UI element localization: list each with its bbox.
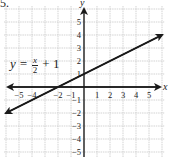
y-tick-label: 3: [77, 43, 81, 53]
fraction-denominator: 2: [32, 66, 38, 75]
x-tick-label: 2: [108, 90, 112, 100]
x-tick-label: 4: [134, 90, 139, 100]
x-axis-label: x: [162, 81, 168, 92]
y-axis-label: y: [79, 0, 85, 8]
x-tick-label: 5: [147, 90, 151, 100]
y-tick-label: −4: [72, 134, 82, 144]
x-tick-label: 1: [95, 90, 99, 100]
fraction: x 2: [32, 56, 38, 75]
equation-lhs: y =: [10, 56, 28, 71]
y-tick-label: −5: [72, 147, 81, 157]
y-tick-label: −3: [72, 121, 81, 131]
x-tick-label: −2: [53, 90, 62, 100]
equation-label: y = x 2 + 1: [10, 56, 59, 75]
y-tick-label: 5: [77, 17, 81, 27]
y-tick-label: 2: [77, 56, 81, 66]
x-tick-label: −5: [14, 90, 23, 100]
y-tick-label: −1: [72, 95, 81, 105]
coordinate-plane: xy −5−4−2−11234554321−1−2−3−4−5: [0, 0, 169, 157]
x-tick-label: 3: [121, 90, 125, 100]
equation-rhs: + 1: [42, 56, 59, 71]
y-tick-label: −2: [72, 108, 81, 118]
